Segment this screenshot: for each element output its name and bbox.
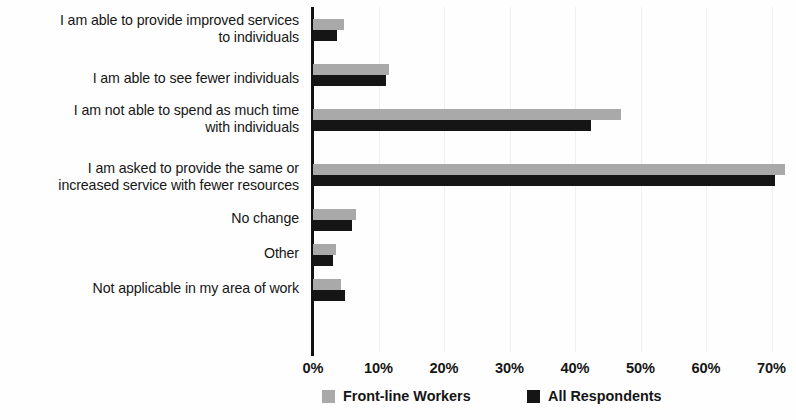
x-tick-label: 70% [742,358,796,378]
category-label-line: I am not able to spend as much time [0,102,299,119]
bar-all-respondents [313,120,591,131]
legend-swatch-icon [322,390,335,403]
bar-front-line-workers [313,209,356,220]
bar-chart: I am able to provide improved servicesto… [0,0,796,420]
category-label-line: increased service with fewer resources [0,177,299,194]
x-tick-label: 50% [611,358,671,378]
category-label-line: I am able to see fewer individuals [0,70,299,87]
legend-label: All Respondents [548,388,662,404]
bar-front-line-workers [313,109,621,120]
chart-legend: Front-line WorkersAll Respondents [0,388,796,414]
x-tick-label: 10% [349,358,409,378]
bar-all-respondents [313,290,345,301]
category-label-line: Not applicable in my area of work [0,280,299,297]
bar-all-respondents [313,220,352,231]
bar-front-line-workers [313,64,389,75]
legend-item: Front-line Workers [322,388,471,404]
category-label-line: No change [0,210,299,227]
category-label: Not applicable in my area of work [0,280,299,297]
bar-all-respondents [313,175,775,186]
plot-area: I am able to provide improved servicesto… [0,0,796,358]
legend-item: All Respondents [527,388,662,404]
category-label: I am asked to provide the same orincreas… [0,160,299,194]
x-tick-label: 0% [283,358,343,378]
x-tick-label: 40% [545,358,605,378]
bar-all-respondents [313,75,386,86]
bar-front-line-workers [313,244,336,255]
bar-all-respondents [313,30,337,41]
category-label: I am not able to spend as much timewith … [0,102,299,136]
bar-front-line-workers [313,279,341,290]
bar-front-line-workers [313,164,785,175]
x-axis-tick-labels: 0%10%20%30%40%50%60%70% [0,358,796,382]
category-label-line: with individuals [0,119,299,136]
category-label-line: I am able to provide improved services [0,12,299,29]
x-tick-label: 20% [414,358,474,378]
category-label: No change [0,210,299,227]
category-label: I am able to provide improved servicesto… [0,12,299,46]
bar-front-line-workers [313,19,344,30]
x-tick-label: 60% [676,358,736,378]
category-label-line: Other [0,245,299,262]
x-tick-label: 30% [480,358,540,378]
category-label: Other [0,245,299,262]
legend-label: Front-line Workers [343,388,471,404]
bar-all-respondents [313,255,333,266]
category-label-line: I am asked to provide the same or [0,160,299,177]
category-label-line: to individuals [0,29,299,46]
category-label: I am able to see fewer individuals [0,70,299,87]
legend-swatch-icon [527,390,540,403]
